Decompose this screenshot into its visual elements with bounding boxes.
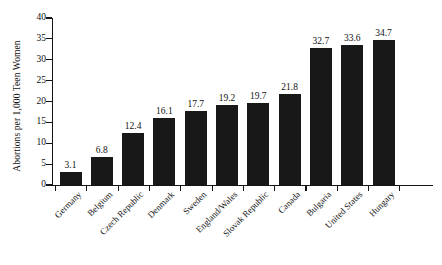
bar-chart: Abortions per 1,000 Teen Women 403530252…	[0, 0, 442, 265]
bar-czech-republic	[122, 133, 144, 185]
y-tick-label-10: 10	[26, 138, 46, 148]
y-tick-10	[46, 143, 52, 144]
bar-canada	[279, 94, 301, 185]
y-tick-15	[46, 122, 52, 123]
x-tick	[55, 186, 56, 191]
x-tick	[337, 186, 338, 191]
bar-belgium	[91, 157, 113, 185]
bar-united-states	[341, 45, 363, 185]
x-tick	[368, 186, 369, 191]
bar-denmark	[153, 118, 175, 185]
x-tick	[212, 186, 213, 191]
bar-value-label: 6.8	[82, 145, 122, 155]
y-tick-label-20: 20	[26, 97, 46, 107]
y-tick-label-0: 0	[26, 180, 46, 190]
bar-value-label: 19.7	[238, 91, 278, 101]
x-tick	[180, 186, 181, 191]
y-tick-label-25: 25	[26, 76, 46, 86]
x-tick	[118, 186, 119, 191]
y-tick-20	[46, 101, 52, 102]
y-tick-35	[46, 38, 52, 39]
bar-slovak-republic	[247, 103, 269, 185]
y-tick-25	[46, 80, 52, 81]
bar-value-label: 12.4	[113, 121, 153, 131]
y-tick-label-5: 5	[26, 159, 46, 169]
bar-value-label: 34.7	[364, 28, 404, 38]
y-tick-label-15: 15	[26, 117, 46, 127]
y-tick-30	[46, 59, 52, 60]
y-tick-40	[46, 17, 52, 18]
bar-sweden	[185, 111, 207, 185]
bar-england-wales	[216, 105, 238, 185]
x-tick	[243, 186, 244, 191]
y-tick-0	[46, 184, 52, 185]
x-tick	[399, 186, 400, 191]
y-tick-label-40: 40	[26, 13, 46, 23]
y-tick-label-35: 35	[26, 34, 46, 44]
y-tick-label-30: 30	[26, 55, 46, 65]
x-tick	[305, 186, 306, 191]
bar-value-label: 3.1	[51, 160, 91, 170]
bar-germany	[60, 172, 82, 185]
x-tick	[86, 186, 87, 191]
bar-bulgaria	[310, 48, 332, 185]
x-tick	[274, 186, 275, 191]
bar-value-label: 21.8	[270, 82, 310, 92]
y-axis-title: Abortions per 1,000 Teen Women	[12, 21, 26, 191]
bar-hungary	[373, 40, 395, 185]
x-tick	[149, 186, 150, 191]
